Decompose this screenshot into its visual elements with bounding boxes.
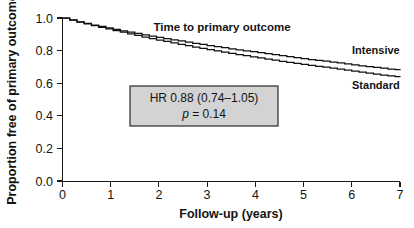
x-axis-tick-labels: 0 1 2 3 4 5 6 7: [59, 188, 404, 202]
x-axis-title: Follow-up (years): [179, 207, 282, 221]
x-tick-label: 3: [204, 188, 211, 202]
hr-value-text: HR 0.88 (0.74–1.05): [150, 91, 259, 105]
hr-annotation-box: HR 0.88 (0.74–1.05) p = 0.14: [130, 86, 278, 126]
curve-label-standard: Standard: [352, 79, 400, 91]
y-axis-tick-labels: 0.0 0.2 0.4 0.6 0.8 1.0: [36, 12, 53, 189]
y-tick-label: 0.4: [36, 109, 53, 123]
plot-title: Time to primary outcome: [153, 21, 290, 33]
x-tick-label: 6: [348, 188, 355, 202]
km-survival-chart: 0.0 0.2 0.4 0.6 0.8 1.0 0 1 2 3 4 5 6: [0, 0, 414, 228]
x-tick-label: 0: [59, 188, 66, 202]
y-axis-ticks: [57, 18, 63, 181]
p-value-text: p = 0.14: [181, 107, 226, 121]
x-tick-label: 7: [397, 188, 404, 202]
y-axis-title: Proportion free of primary outcome: [5, 0, 19, 205]
x-tick-label: 5: [300, 188, 307, 202]
x-tick-label: 2: [155, 188, 162, 202]
y-tick-label: 0.6: [36, 77, 53, 91]
y-tick-label: 0.2: [36, 142, 53, 156]
chart-figure: 0.0 0.2 0.4 0.6 0.8 1.0 0 1 2 3 4 5 6: [0, 0, 414, 228]
x-axis-ticks: [63, 182, 401, 188]
y-tick-label: 0.0: [36, 175, 53, 189]
y-tick-label: 0.8: [36, 44, 53, 58]
y-tick-label: 1.0: [36, 12, 53, 26]
x-tick-label: 1: [107, 188, 114, 202]
curve-label-intensive: Intensive: [352, 44, 400, 56]
x-tick-label: 4: [252, 188, 259, 202]
